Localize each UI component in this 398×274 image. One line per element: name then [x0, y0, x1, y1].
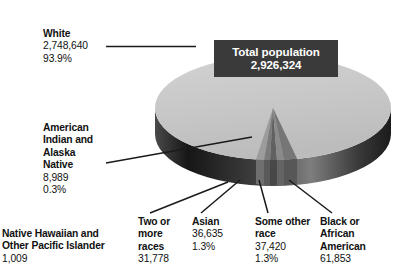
- label-someother-percent: 1.3%: [255, 253, 313, 265]
- slice-face-black-african-american: [284, 159, 297, 186]
- label-aian-name-line2: Indian and: [43, 134, 119, 146]
- total-population-title: Total population: [218, 45, 334, 58]
- slice-face-asian: [270, 160, 277, 185]
- label-some-other-race: Some other race 37,420 1.3%: [255, 216, 313, 266]
- slice-face-aian: [256, 160, 264, 186]
- label-asian: Asian 36,635 1.3%: [192, 216, 244, 253]
- label-aian-percent: 0.3%: [43, 184, 119, 196]
- label-white-name: White: [43, 28, 113, 40]
- label-nhopi-value: 1,009: [2, 253, 134, 265]
- label-black-value: 61,853: [320, 253, 382, 265]
- label-asian-value: 36,635: [192, 228, 244, 240]
- label-white-value: 2,748,640: [43, 40, 113, 52]
- label-two-value: 31,778: [138, 253, 182, 265]
- label-aian-name-line3: Alaska: [43, 147, 119, 159]
- label-black-name-line1: Black or: [320, 216, 382, 228]
- slice-face-some-other-race: [277, 160, 284, 185]
- label-white-percent: 93.9%: [43, 53, 113, 65]
- label-black-name-line3: American: [320, 241, 382, 253]
- slice-face-two-or-more-races: [264, 160, 270, 185]
- label-american-indian-alaska-native: American Indian and Alaska Native 8,989 …: [43, 122, 119, 196]
- label-someother-value: 37,420: [255, 241, 313, 253]
- label-white: White 2,748,640 93.9%: [43, 28, 113, 65]
- label-nhopi-name-line2: Other Pacific Islander: [2, 240, 134, 252]
- label-black-african-american: Black or African American 61,853: [320, 216, 382, 266]
- label-black-name-line2: African: [320, 228, 382, 240]
- label-asian-percent: 1.3%: [192, 241, 244, 253]
- label-nhopi-name-line1: Native Hawaiian and: [2, 228, 134, 240]
- total-population-value: 2,926,324: [218, 58, 334, 71]
- total-population-plaque: Total population 2,926,324: [214, 40, 338, 77]
- label-two-or-more-races: Two or more races 31,778: [138, 216, 182, 266]
- label-someother-name-line1: Some other: [255, 216, 313, 228]
- label-two-name-line1: Two or: [138, 216, 182, 228]
- label-aian-name-line1: American: [43, 122, 119, 134]
- label-aian-value: 8,989: [43, 172, 119, 184]
- label-asian-name: Asian: [192, 216, 244, 228]
- label-native-hawaiian-pacific-islander: Native Hawaiian and Other Pacific Island…: [2, 228, 134, 265]
- label-two-name-line3: races: [138, 241, 182, 253]
- label-someother-name-line2: race: [255, 228, 313, 240]
- label-two-name-line2: more: [138, 228, 182, 240]
- label-aian-name-line4: Native: [43, 159, 119, 171]
- infographic-pie-chart: • • • • • • • • k ; oday. forty- all wit…: [0, 0, 398, 274]
